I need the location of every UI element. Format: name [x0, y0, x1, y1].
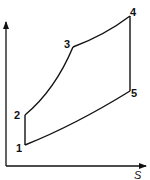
point-label-2: 2 [14, 109, 20, 121]
point-label-4: 4 [130, 6, 137, 18]
point-label-1: 1 [16, 142, 22, 154]
cycle-diagram: 1 2 3 4 5 S [0, 0, 150, 180]
process-2-3 [25, 47, 73, 115]
point-label-3: 3 [64, 38, 70, 50]
point-label-5: 5 [131, 87, 137, 99]
cycle-path [25, 16, 130, 145]
process-3-4 [73, 16, 130, 47]
x-axis-label: S [134, 169, 142, 180]
